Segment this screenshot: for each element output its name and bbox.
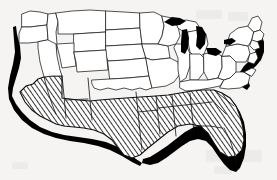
us-sun-belt-map-figure: Map of the United States with Sun Belt s… xyxy=(0,0,277,180)
us-map-svg: Map of the United States with Sun Belt s… xyxy=(0,0,277,180)
